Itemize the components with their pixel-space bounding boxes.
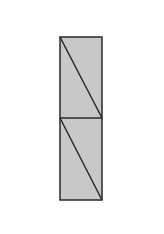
diagram-canvas [0, 0, 164, 234]
